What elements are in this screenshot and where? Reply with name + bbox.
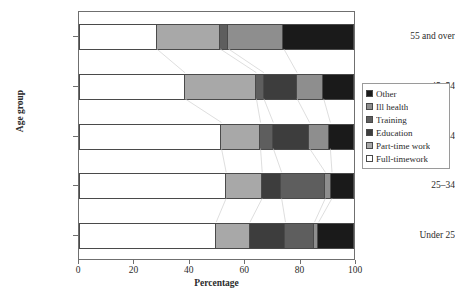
bar-segment-ill-health: [297, 74, 323, 100]
bar-segment-ill-health: [228, 24, 283, 50]
bar-segment-other: [283, 24, 354, 50]
legend-label: Ill health: [376, 102, 408, 112]
bar-segment-other: [329, 124, 353, 150]
legend-label: Training: [376, 115, 407, 125]
bar-segment-ill-health: [309, 124, 330, 150]
bar-25-34: [79, 173, 354, 199]
legend-item-other: Other: [366, 87, 446, 100]
x-tick-mark: [355, 260, 356, 264]
bar-segment-education: [262, 173, 281, 199]
bar-segment-other: [323, 74, 354, 100]
legend-swatch-icon: [366, 155, 373, 162]
legend-swatch-icon: [366, 142, 373, 149]
bar-segment-other: [331, 173, 354, 199]
bar-segment-full-timework: [79, 24, 157, 50]
y-tick-label-under-25: Under 25: [383, 230, 455, 240]
bar-segment-training: [281, 173, 324, 199]
bar-segment-part-time-work: [216, 223, 250, 249]
bar-segment-education: [264, 74, 297, 100]
stacked-bar-chart-figure: Age group 55 and over45–5435–4425–34Unde…: [0, 0, 455, 300]
bar-segment-full-timework: [79, 173, 226, 199]
legend-swatch-icon: [366, 129, 373, 136]
bar-segment-full-timework: [79, 223, 216, 249]
bar-segment-training: [256, 74, 263, 100]
x-tick-label-80: 80: [280, 265, 320, 275]
x-tick-label-100: 100: [335, 265, 375, 275]
x-tick-mark: [244, 260, 245, 264]
x-tick-mark: [78, 260, 79, 264]
chart-legend: OtherIll healthTrainingEducationPart-tim…: [362, 83, 450, 169]
bar-segment-training: [260, 124, 273, 150]
x-tick-label-0: 0: [58, 265, 98, 275]
plot-area: [78, 11, 355, 260]
legend-swatch-icon: [366, 90, 373, 97]
y-tick-label-55-and-over: 55 and over: [383, 31, 455, 41]
bar-segment-full-timework: [79, 124, 221, 150]
bar-35-44: [79, 124, 354, 150]
x-tick-label-60: 60: [224, 265, 264, 275]
bar-segment-training: [220, 24, 228, 50]
legend-label: Part-time work: [376, 141, 430, 151]
bar-segment-other: [318, 223, 354, 249]
bar-segment-part-time-work: [185, 74, 256, 100]
bar-segment-full-timework: [79, 74, 185, 100]
bar-segment-part-time-work: [226, 173, 262, 199]
legend-item-full-timework: Full-timework: [366, 152, 446, 165]
legend-item-education: Education: [366, 126, 446, 139]
bar-segment-ill-health: [325, 173, 332, 199]
bar-segment-part-time-work: [221, 124, 260, 150]
bar-under-25: [79, 223, 354, 249]
bar-segment-education: [273, 124, 309, 150]
x-tick-label-20: 20: [113, 265, 153, 275]
legend-item-part-time-work: Part-time work: [366, 139, 446, 152]
legend-label: Other: [376, 89, 397, 99]
bar-segment-education: [250, 223, 285, 249]
y-axis-title: Age group: [15, 71, 25, 151]
bar-55-and-over: [79, 24, 354, 50]
x-axis-title: Percentage: [78, 278, 355, 288]
bar-segment-part-time-work: [157, 24, 220, 50]
bar-45-54: [79, 74, 354, 100]
legend-label: Full-timework: [376, 154, 428, 164]
x-tick-mark: [300, 260, 301, 264]
legend-item-training: Training: [366, 113, 446, 126]
legend-label: Education: [376, 128, 413, 138]
x-tick-label-40: 40: [169, 265, 209, 275]
bar-segment-training: [285, 223, 314, 249]
legend-swatch-icon: [366, 116, 373, 123]
y-tick-label-25-34: 25–34: [383, 180, 455, 190]
x-tick-mark: [133, 260, 134, 264]
x-tick-mark: [189, 260, 190, 264]
cropped-title-remnant: [78, 0, 278, 3]
legend-swatch-icon: [366, 103, 373, 110]
legend-item-ill-health: Ill health: [366, 100, 446, 113]
